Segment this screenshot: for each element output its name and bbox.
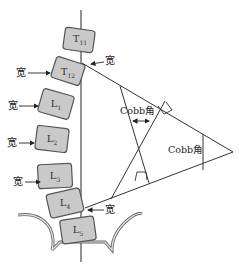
wide-label-4: 宽 xyxy=(13,177,23,187)
cobb-angle-label-outer: Cobb角 xyxy=(168,145,203,155)
wide-label-6: 宽 xyxy=(105,205,115,215)
arrow-wide-5 xyxy=(91,62,104,64)
lower-endplate-line xyxy=(85,152,233,208)
wide-label-3: 宽 xyxy=(7,138,17,148)
wide-label-1: 宽 xyxy=(16,68,26,78)
vertebra-label-L3: L3 xyxy=(45,171,65,183)
wide-label-2: 宽 xyxy=(8,101,18,111)
diagram-canvas xyxy=(0,0,239,270)
vertebra-label-L5: L5 xyxy=(68,225,88,237)
vertebra-label-L4: L4 xyxy=(55,198,75,210)
vertebra-label-T12: T12 xyxy=(58,67,78,79)
wide-label-5: 宽 xyxy=(105,56,115,66)
cobb-angle-diagram: T11 T12 L1 L2 L3 L4 L5 宽 宽 宽 宽 宽 宽 Cobb角… xyxy=(0,0,239,270)
cobb-angle-label-inner: Cobb角 xyxy=(120,106,155,116)
perpendicular-line-upper xyxy=(120,86,149,183)
vertebra-label-T11: T11 xyxy=(70,34,90,46)
upper-endplate-line xyxy=(82,63,233,152)
vertebra-label-L2: L2 xyxy=(42,134,62,146)
vertebra-label-L1: L1 xyxy=(46,99,66,111)
right-angle-marker-lower xyxy=(135,172,147,181)
